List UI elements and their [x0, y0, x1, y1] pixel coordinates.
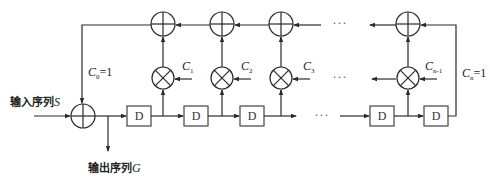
- svg-text:D: D: [192, 109, 201, 123]
- input-sequence-label: 输入序列S: [10, 95, 60, 109]
- adder-1: [151, 12, 175, 36]
- coef-label-c0: C0=1: [88, 65, 112, 81]
- output-sequence-label: 输出序列G: [88, 161, 141, 175]
- adder-3: [269, 12, 293, 36]
- lfsr-diagram: D D D D D: [0, 0, 490, 178]
- register-d2: D: [184, 106, 208, 126]
- coef-label-cn-1: Cn-1: [425, 59, 443, 75]
- ellipsis-top: ···: [333, 16, 348, 30]
- multiplier-1: [152, 67, 174, 89]
- ellipsis-middle: ···: [333, 70, 348, 84]
- adder-n-1: [396, 12, 420, 36]
- adder-2: [210, 12, 234, 36]
- coef-label-c3: C3: [303, 59, 315, 75]
- svg-text:D: D: [248, 109, 257, 123]
- multiplier-n-1: [397, 67, 419, 89]
- multiplier-3: [270, 67, 292, 89]
- ellipsis-bottom: ···: [315, 108, 330, 122]
- coef-label-c1: C1: [182, 59, 194, 75]
- input-xor-adder: [71, 104, 95, 128]
- register-d-n: D: [424, 106, 448, 126]
- coef-label-cn: Cn=1: [462, 66, 486, 82]
- multiplier-2: [211, 67, 233, 89]
- register-d-n-1: D: [370, 106, 394, 126]
- feedback-left-line: [82, 25, 151, 103]
- coef-label-c2: C2: [241, 59, 253, 75]
- svg-text:D: D: [432, 109, 441, 123]
- svg-text:D: D: [378, 109, 387, 123]
- svg-text:D: D: [135, 109, 144, 123]
- register-d1: D: [127, 106, 151, 126]
- register-d3: D: [240, 106, 264, 126]
